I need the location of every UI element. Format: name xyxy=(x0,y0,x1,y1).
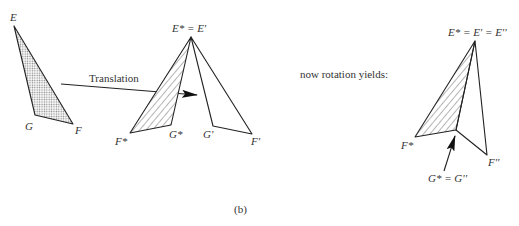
label-F-star-right: F* xyxy=(400,139,414,151)
pointer-arrow xyxy=(444,136,455,171)
figure-caption: (b) xyxy=(234,203,247,216)
triangle-prime xyxy=(191,37,252,134)
label-G-star: G* xyxy=(169,128,183,140)
triangle-star-hatched-rotated xyxy=(415,41,475,137)
label-G-star-eq-G-double-prime: G* = G'' xyxy=(428,172,468,184)
geometry-figure: E G F Translation E* = E' F* G* G' F' no… xyxy=(0,0,519,226)
label-E-star-eq-E-prime-eq-E-double-prime: E* = E' = E'' xyxy=(447,26,507,38)
label-F-double-prime: F'' xyxy=(487,156,500,168)
label-E: E xyxy=(9,11,17,23)
translation-label: Translation xyxy=(89,72,139,84)
label-E-star-eq-E-prime: E* = E' xyxy=(171,22,207,34)
right-triangles: E* = E' = E'' F* F'' G* = G'' xyxy=(400,26,507,184)
label-F-prime: F' xyxy=(250,135,261,147)
middle-triangles: E* = E' F* G* G' F' xyxy=(114,22,261,147)
label-F-star: F* xyxy=(114,135,128,147)
label-G-prime: G' xyxy=(203,128,214,140)
triangle-EGF xyxy=(14,26,73,124)
label-F: F xyxy=(74,124,82,136)
original-triangle: E G F xyxy=(9,11,82,136)
label-G: G xyxy=(25,120,33,132)
triangle-star-hatched xyxy=(130,37,191,133)
rotation-text: now rotation yields: xyxy=(300,68,388,80)
